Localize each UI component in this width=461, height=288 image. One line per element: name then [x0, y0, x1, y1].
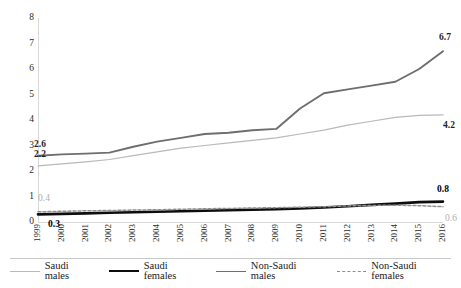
- x-axis-line: [38, 222, 443, 223]
- x-tick-label: 2011: [319, 224, 328, 242]
- legend-item-label: Non-Saudi males: [251, 261, 323, 282]
- x-tick-label: 2006: [200, 224, 209, 242]
- series-line-saudi-males: [38, 115, 443, 166]
- y-tick-label: 0: [14, 217, 34, 227]
- series-line-non-saudi-males: [38, 51, 443, 156]
- value-label: 0.6: [445, 214, 457, 224]
- x-tick-label: 2016: [438, 224, 447, 242]
- legend-line-icon: [109, 270, 139, 272]
- legend-line-icon: [10, 271, 40, 272]
- y-tick-label: 6: [14, 64, 34, 74]
- value-label: 6.7: [439, 33, 451, 43]
- value-label: 2.6: [34, 140, 46, 150]
- legend-item-saudi-females[interactable]: Saudi females: [109, 261, 202, 282]
- y-tick-label: 3: [14, 141, 34, 151]
- series-lines: [38, 18, 443, 222]
- x-axis-tick-labels: 1999200020012002200320042005200620072008…: [38, 224, 443, 258]
- value-label: 0.8: [437, 185, 449, 195]
- y-axis-tick-labels: 876543210: [10, 18, 34, 222]
- legend-item-label: Saudi females: [144, 261, 202, 282]
- x-tick-label: 2009: [271, 224, 280, 242]
- series-path-group: [38, 51, 443, 214]
- line-chart: 876543210 199920002001200220032004200520…: [0, 0, 461, 288]
- y-tick-label: 2: [14, 166, 34, 176]
- value-label: 0.4: [38, 194, 50, 204]
- x-tick-label: 2012: [343, 224, 352, 242]
- x-tick-label: 2004: [152, 224, 161, 242]
- value-label: 4.2: [443, 121, 455, 131]
- x-tick-label: 2010: [295, 224, 304, 242]
- value-label: 0.3: [48, 220, 60, 230]
- x-tick-label: 2014: [390, 224, 399, 242]
- x-tick-label: 2003: [128, 224, 137, 242]
- x-tick-label: 2007: [224, 224, 233, 242]
- legend-line-icon: [216, 271, 246, 272]
- legend-item-label: Saudi males: [45, 261, 95, 282]
- value-label: 2.2: [34, 150, 46, 160]
- y-tick-label: 7: [14, 39, 34, 49]
- x-tick-label: 2015: [414, 224, 423, 242]
- legend-item-saudi-males[interactable]: Saudi males: [10, 261, 95, 282]
- y-tick-label: 1: [14, 192, 34, 202]
- y-tick-label: 4: [14, 115, 34, 125]
- x-tick-label: 2002: [104, 224, 113, 242]
- y-tick-label: 5: [14, 90, 34, 100]
- x-tick-label: 2005: [176, 224, 185, 242]
- x-tick-label: 2013: [367, 224, 376, 242]
- x-tick-label: 2001: [81, 224, 90, 242]
- x-tick-label: 1999: [33, 224, 42, 242]
- plot-area: [38, 18, 443, 222]
- chart-legend: Saudi malesSaudi femalesNon-Saudi malesN…: [10, 262, 451, 280]
- legend-item-label: Non-Saudi females: [371, 261, 451, 282]
- legend-item-non-saudi-males[interactable]: Non-Saudi males: [216, 261, 322, 282]
- legend-divider: [10, 258, 451, 259]
- legend-item-non-saudi-females[interactable]: Non-Saudi females: [337, 261, 451, 282]
- x-tick-label: 2008: [247, 224, 256, 242]
- legend-line-icon: [337, 271, 367, 272]
- y-tick-label: 8: [14, 13, 34, 23]
